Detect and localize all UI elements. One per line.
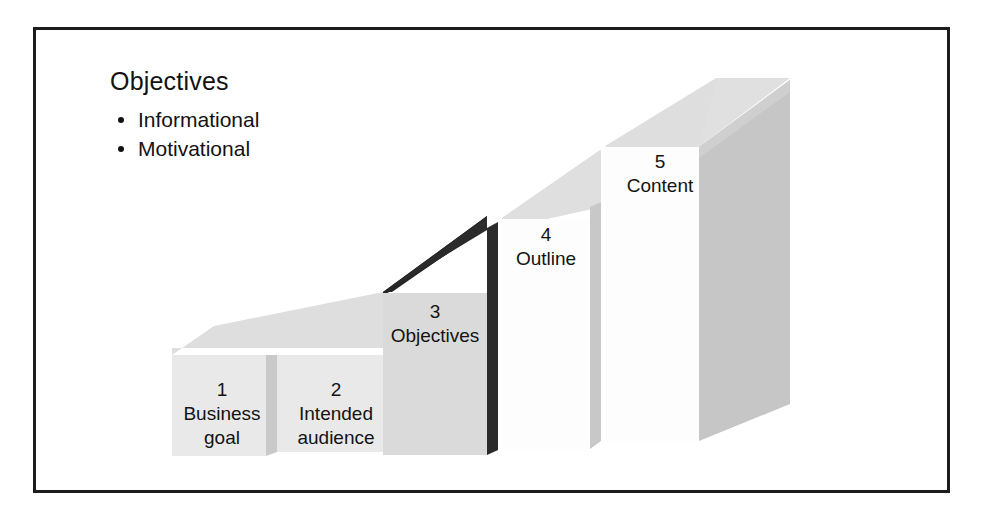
staircase-diagram: Objectives Informational Motivational 1 … xyxy=(0,0,984,522)
legend-item-label: Motivational xyxy=(138,137,250,160)
step-1-front-face xyxy=(172,355,266,456)
legend: Objectives Informational Motivational xyxy=(110,68,440,164)
bullet-dot-icon xyxy=(118,117,124,123)
legend-title: Objectives xyxy=(110,68,440,96)
step-5-top-face-inner xyxy=(605,79,717,147)
step-4-side-face xyxy=(590,202,601,449)
legend-list: Informational Motivational xyxy=(110,105,440,165)
step-3-side-face xyxy=(487,222,498,455)
legend-item-informational: Informational xyxy=(110,105,440,135)
legend-item-label: Informational xyxy=(138,108,259,131)
step-2-front-face xyxy=(277,355,383,452)
step-1-2-top-face xyxy=(172,292,383,355)
step-1-2-divider xyxy=(266,355,277,456)
bullet-dot-icon xyxy=(118,146,124,152)
step-4-front-face xyxy=(502,219,590,449)
step-4-top-face-inner xyxy=(502,150,601,229)
step-3-front-face xyxy=(383,293,487,455)
legend-item-motivational: Motivational xyxy=(110,134,440,164)
step-5-front-face xyxy=(605,147,699,441)
